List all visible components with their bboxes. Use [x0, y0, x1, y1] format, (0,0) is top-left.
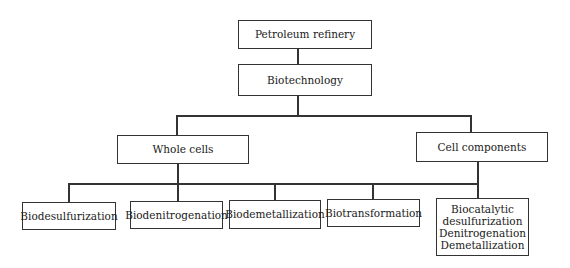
node-biotransformation: Biotransformation: [327, 199, 420, 227]
connector-cell-components-down: [477, 162, 479, 198]
node-label: Biotransformation: [325, 207, 422, 220]
connector-level2-bar: [176, 115, 472, 117]
node-label-line: Biocatalytic: [451, 203, 514, 215]
node-label-line: Denitrogenation: [439, 227, 526, 239]
node-label: Petroleum refinery: [255, 28, 355, 41]
connector-to-whole-cells: [176, 115, 178, 135]
node-label-line: Demetallization: [441, 239, 525, 251]
node-label: Whole cells: [153, 143, 214, 156]
node-label: Biodemetallization: [225, 208, 325, 221]
node-label: Biotechnology: [267, 74, 343, 87]
connector-refinery-biotech: [297, 49, 299, 64]
connector-whole-cells-down: [177, 164, 179, 184]
node-biodesulfurization: Biodesulfurization: [22, 202, 116, 230]
connector-to-biodesulfurization: [68, 183, 70, 202]
node-label-line: desulfurization: [443, 215, 523, 227]
node-biodemetallization: Biodemetallization: [229, 200, 321, 229]
node-label: Biodenitrogenation: [125, 209, 228, 222]
node-whole-cells: Whole cells: [117, 135, 249, 164]
node-biodenitrogenation: Biodenitrogenation: [130, 201, 223, 229]
connector-to-biodemetallization: [274, 183, 276, 200]
connector-to-biodenitrogenation: [177, 183, 179, 201]
node-label: Cell components: [438, 141, 527, 154]
node-biotechnology: Biotechnology: [238, 64, 372, 96]
connector-biotech-down: [297, 96, 299, 116]
node-label: Biodesulfurization: [20, 210, 117, 223]
node-petroleum-refinery: Petroleum refinery: [238, 20, 372, 49]
node-biocatalytic-processes: Biocatalytic desulfurization Denitrogena…: [436, 198, 529, 256]
node-cell-components: Cell components: [416, 132, 548, 162]
connector-to-biotransformation: [372, 183, 374, 199]
connector-to-cell-components: [470, 115, 472, 132]
